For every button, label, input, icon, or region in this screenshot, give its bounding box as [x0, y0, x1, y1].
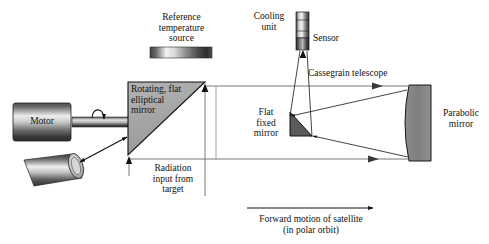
label-rotating-flat-elliptical-mirror: Rotating, flat elliptical mirror	[131, 84, 203, 116]
mirror-base-arrowhead	[126, 156, 132, 164]
scan-tube	[24, 152, 86, 186]
parabolic-mirror	[405, 85, 431, 161]
sensor-ray-left	[290, 51, 300, 116]
lower-ray-arrowhead	[368, 156, 379, 163]
scan-double-arrow	[80, 137, 127, 162]
label-cooling-unit: Cooling unit	[245, 11, 293, 32]
sensor-ray-right	[307, 51, 312, 137]
upper-ray-arrowhead	[372, 83, 383, 90]
sensor-arrowhead	[300, 50, 307, 58]
reflected-rays	[291, 90, 408, 157]
label-cassegrain-telescope: Cassegrain telescope	[308, 68, 428, 79]
cooling-unit	[296, 12, 309, 38]
label-sensor: Sensor	[313, 33, 363, 44]
label-parabolic-mirror: Parabolic mirror	[435, 108, 487, 129]
label-motor: Motor	[13, 116, 71, 127]
parabolic-to-flat-lower	[313, 136, 408, 157]
reference-temperature-source-bar	[150, 47, 212, 58]
label-reference-temperature-source: Reference temperature source	[145, 12, 218, 44]
label-radiation-input-from-target: Radiation input from target	[135, 163, 211, 195]
label-flat-fixed-mirror: Flat fixed mirror	[243, 107, 289, 139]
parabolic-to-flat-upper	[291, 90, 407, 116]
motor-shaft	[72, 117, 130, 127]
label-forward-motion-of-satellite: Forward motion of satellite (in polar or…	[240, 214, 382, 235]
sensor-body	[296, 38, 309, 50]
